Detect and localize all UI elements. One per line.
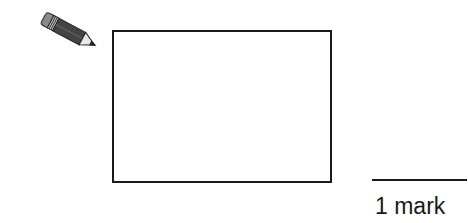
- answer-box[interactable]: [112, 30, 332, 183]
- mark-allocation-label: 1 mark: [375, 193, 445, 219]
- mark-divider-line: [372, 179, 467, 181]
- pencil-icon: [34, 10, 106, 54]
